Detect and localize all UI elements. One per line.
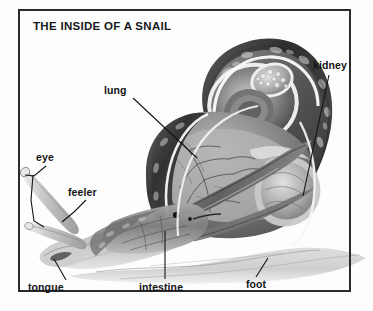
genital-pore [188,217,192,221]
label-lung: lung [104,84,127,96]
label-foot: foot [246,278,266,290]
label-feeler: feeler [68,186,97,198]
label-kidney: kidney [313,59,347,71]
snail-illustration [0,0,373,311]
label-intestine: intestine [139,281,183,293]
figure-title: THE INSIDE OF A SNAIL [33,20,171,32]
label-tongue: tongue [28,281,64,293]
snail-anatomy-figure: THE INSIDE OF A SNAIL eye feeler lung ki… [0,0,373,311]
label-eye: eye [36,151,54,163]
